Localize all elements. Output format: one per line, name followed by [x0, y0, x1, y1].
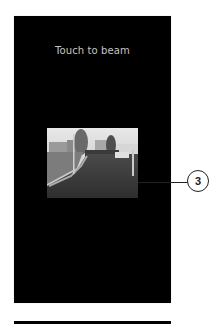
- touch-to-beam-label: Touch to beam: [14, 45, 171, 56]
- beam-photo-thumbnail[interactable]: [47, 128, 138, 198]
- android-beam-screen[interactable]: Touch to beam: [14, 16, 171, 303]
- callout-line: [138, 182, 190, 183]
- page: Touch to beam: [0, 0, 224, 324]
- street-photo-image: [47, 128, 138, 198]
- callout-number-badge: 3: [187, 170, 209, 192]
